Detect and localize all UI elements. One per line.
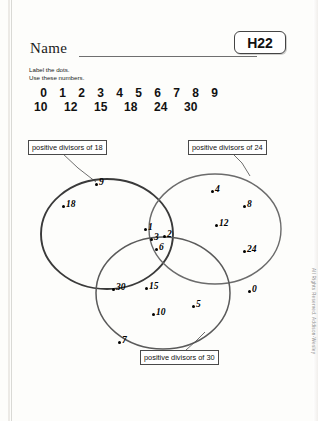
point-label: 1 xyxy=(148,222,153,232)
callout-divisors-24: positive divisors of 24 xyxy=(188,140,267,155)
point-label: 8 xyxy=(247,199,252,209)
leader-line-right xyxy=(232,153,250,176)
point-label: 5 xyxy=(196,299,201,309)
point-label: 9 xyxy=(99,177,104,187)
point-label: 15 xyxy=(149,281,159,291)
copyright-notice: All Rights Reserved. Addison-Wesley xyxy=(311,268,316,354)
point-label: 24 xyxy=(247,244,257,254)
point-label: 10 xyxy=(156,307,166,317)
leader-line-bottom xyxy=(186,332,205,350)
worksheet-page: Name H22 Label the dots. Use these numbe… xyxy=(0,0,318,421)
point-label: 30 xyxy=(116,282,126,292)
venn-circle-bottom xyxy=(96,237,230,349)
point-label: 0 xyxy=(252,284,257,294)
leader-line-left xyxy=(62,153,96,182)
point-label: 7 xyxy=(122,335,127,345)
callout-divisors-30: positive divisors of 30 xyxy=(140,350,219,365)
point-label: 6 xyxy=(159,242,164,252)
point-label: 12 xyxy=(219,218,229,228)
point-label: 3 xyxy=(154,232,159,242)
point-label: 2 xyxy=(167,229,172,239)
point-label: 18 xyxy=(66,199,76,209)
callout-divisors-18: positive divisors of 18 xyxy=(28,140,107,155)
venn-circles xyxy=(41,174,281,349)
point-label: 4 xyxy=(215,184,220,194)
